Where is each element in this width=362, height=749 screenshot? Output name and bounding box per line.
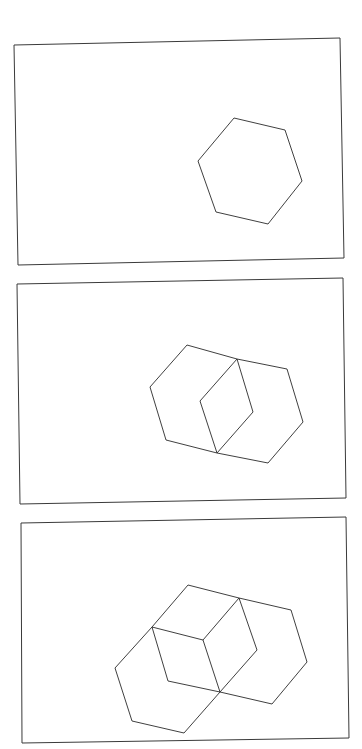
hexagon-edge xyxy=(198,118,302,224)
hexagon-edge xyxy=(203,640,220,692)
hexagon-construction-diagram xyxy=(0,0,362,749)
panel-step-3 xyxy=(21,517,349,743)
panel-frame xyxy=(17,278,346,504)
hexagon-edge xyxy=(152,585,307,704)
hexagon-edge xyxy=(220,598,257,692)
panel-step-1 xyxy=(14,38,344,265)
hexagon-edge xyxy=(150,345,237,453)
hexagon-edge xyxy=(217,359,303,463)
hexagon-edge xyxy=(152,598,239,640)
hexagon-edge xyxy=(200,359,237,453)
panel-frame xyxy=(21,517,349,743)
panel-step-2 xyxy=(17,278,346,504)
panel-frame xyxy=(14,38,344,265)
hexagon-edge xyxy=(217,359,253,453)
